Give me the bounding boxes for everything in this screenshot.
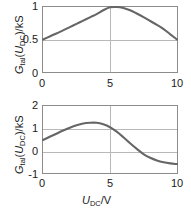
curve-bottom	[43, 106, 177, 173]
chart-panel-bottom: Gtal(UDC)/kS 2 1 0 -1 0 5 10 UDC/V	[0, 96, 191, 212]
y-tick-bot-0: 0	[6, 146, 38, 157]
ylabel-top-sub: tal	[18, 58, 27, 66]
x-tick-bot-0: 0	[32, 178, 52, 189]
ylabel-bot-sub: tal	[18, 158, 27, 166]
x-tick-bot-10: 10	[166, 178, 188, 189]
chart-panel-top: Gtal(UDC)/kS 1 0.5 0 0 5 10	[0, 0, 191, 95]
ylabel-top-u: U	[13, 46, 25, 54]
x-tick-top-5: 5	[100, 78, 120, 89]
y-tick-bot-2: 2	[6, 100, 38, 111]
y-tick-bot-1: 1	[6, 123, 38, 134]
xlabel-sub: DC	[90, 199, 101, 208]
x-axis-label-bottom: UDC/V	[82, 195, 111, 206]
plot-area-bottom	[42, 105, 178, 174]
figure-container: Gtal(UDC)/kS 1 0.5 0 0 5 10 Gtal(UDC)/kS…	[0, 0, 191, 212]
xlabel-u: U	[82, 194, 90, 206]
y-tick-top-1: 0.5	[6, 34, 38, 45]
x-tick-bot-5: 5	[100, 178, 120, 189]
x-tick-top-0: 0	[32, 78, 52, 89]
plot-area-top	[42, 6, 178, 73]
ylabel-bot-usub: DC	[18, 135, 27, 146]
y-tick-top-2: 1	[6, 1, 38, 12]
curve-top	[43, 7, 177, 72]
xlabel-unit: /V	[101, 194, 111, 206]
x-tick-top-10: 10	[166, 78, 188, 89]
